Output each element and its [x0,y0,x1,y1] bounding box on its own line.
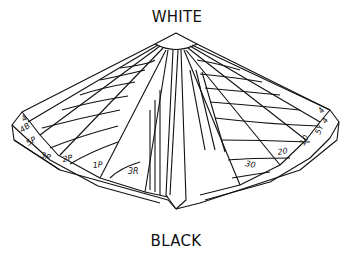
rim-label: 3R [128,167,139,176]
rim-label: 30 [245,159,257,170]
color-solid-diagram: WHITE BLACK [0,0,352,261]
rim-label: 5Y [313,122,325,135]
rim-label: 2P [62,153,73,164]
double-cone-drawing: 4 4B 5P 3P 2P 1P 3R 30 20 10 5Y 4 4 [0,0,352,261]
rim-label: 20 [277,146,289,157]
rim-label: 5P [25,135,38,148]
rim-label: 1P [92,160,103,170]
rim-label: 4 [320,116,330,125]
